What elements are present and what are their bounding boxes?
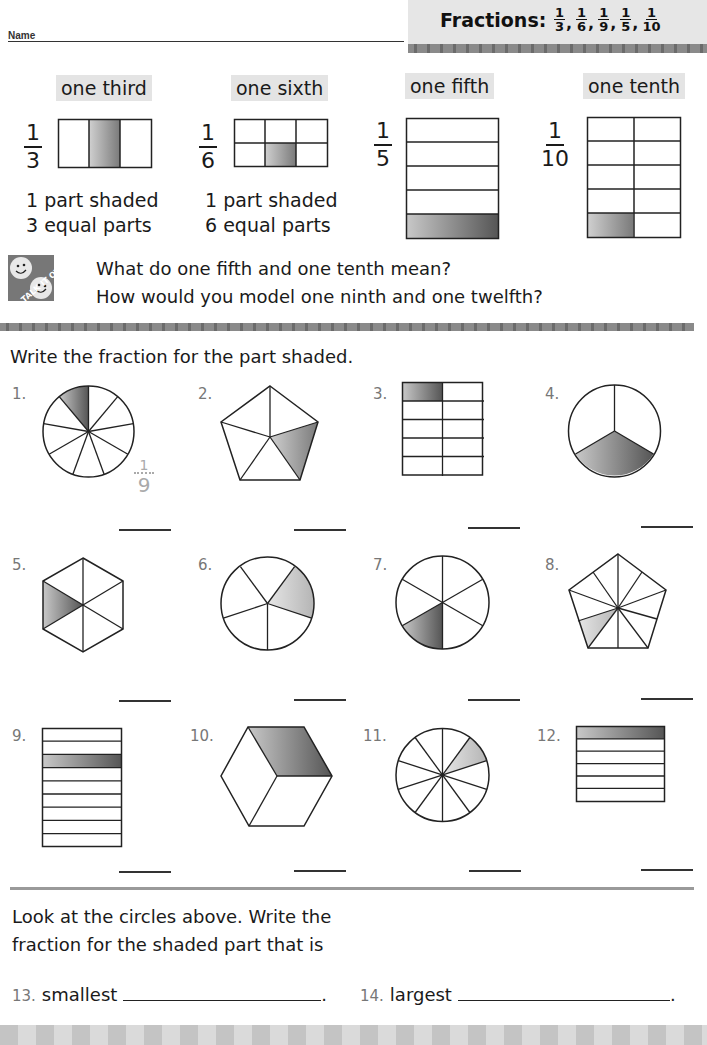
problem-number-8: 8. <box>545 556 559 574</box>
worksheet-title: Fractions: 13, 16, 19, 15, 110 <box>440 6 662 33</box>
problem-4-circle-thirds <box>568 382 662 478</box>
title-fraction-1-6: 16 <box>576 6 587 33</box>
title-fraction-1-9: 19 <box>598 6 609 33</box>
answer-field-12[interactable] <box>641 869 693 871</box>
problem-11-circle-tenths <box>396 726 490 824</box>
problem-number-11: 11. <box>363 727 387 745</box>
comparison-item-14: 14. largest . <box>360 984 676 1005</box>
label-one-third: one third <box>56 75 152 101</box>
title-fraction-1-10: 110 <box>642 6 660 33</box>
answer-field-7[interactable] <box>468 699 520 701</box>
problem-3-grid-tenths <box>402 382 484 476</box>
comparison-item-13: 13. smallest . <box>12 984 327 1005</box>
label-one-sixth: one sixth <box>231 75 328 101</box>
model-one-third <box>58 119 152 169</box>
answer-field-5[interactable] <box>119 700 171 702</box>
model-one-fifth <box>406 118 499 239</box>
title-prefix: Fractions: <box>440 9 546 31</box>
answer-field-6[interactable] <box>294 699 346 701</box>
answer-field-2[interactable] <box>294 529 346 531</box>
question-1: What do one fifth and one tenth mean? <box>96 255 543 283</box>
title-fraction-1-5: 15 <box>620 6 631 33</box>
problem-1-circle-ninths <box>42 385 136 479</box>
fraction-one-fifth: 15 <box>374 120 392 170</box>
fraction-one-tenth: 110 <box>541 120 569 170</box>
talk-it-over-questions: What do one fifth and one tenth mean? Ho… <box>96 255 543 311</box>
answer-field-3[interactable] <box>468 527 520 529</box>
exercise-instruction: Write the fraction for the part shaded. <box>10 346 353 367</box>
one-sixth-description: 1 part shaded6 equal parts <box>205 188 338 238</box>
problem-number-12: 12. <box>537 727 561 745</box>
answer-field-10[interactable] <box>294 870 346 872</box>
worksheet-title-box: Fractions: 13, 16, 19, 15, 110 <box>408 0 707 44</box>
decorative-band <box>408 44 707 53</box>
answer-field-4[interactable] <box>641 526 693 528</box>
problem-number-1: 1. <box>12 385 26 403</box>
example-answer-dotted-fraction: 1 9 <box>134 458 154 496</box>
name-input-line[interactable] <box>8 41 404 42</box>
footer-checker-band <box>0 1025 707 1045</box>
problem-7-circle-sixths <box>395 554 491 650</box>
problem-number-5: 5. <box>12 556 26 574</box>
question-2: How would you model one ninth and one tw… <box>96 283 543 311</box>
problem-number-9: 9. <box>12 727 26 745</box>
fraction-one-sixth: 16 <box>199 122 217 172</box>
problem-number-6: 6. <box>198 556 212 574</box>
problem-8-pentagon-tenths <box>568 553 668 649</box>
model-one-tenth <box>587 117 681 238</box>
talk-it-over-smiley-icon: TALK IT OVER <box>8 255 54 301</box>
model-one-sixth <box>234 119 328 168</box>
label-one-tenth: one tenth <box>583 73 685 99</box>
comparison-prompt: Look at the circles above. Write the fra… <box>12 903 331 959</box>
problem-5-hexagon-sixths <box>42 557 124 653</box>
problem-number-4: 4. <box>545 385 559 403</box>
answer-field-8[interactable] <box>641 698 693 700</box>
problem-10-cube-thirds <box>220 726 334 827</box>
section-divider-band <box>0 323 694 331</box>
one-third-description: 1 part shaded3 equal parts <box>26 188 159 238</box>
smallest-answer-field[interactable] <box>123 986 321 1001</box>
problem-number-7: 7. <box>373 556 387 574</box>
name-label: Name <box>8 30 35 41</box>
title-fraction-1-3: 13 <box>554 6 565 33</box>
label-one-fifth: one fifth <box>405 73 494 99</box>
problem-12-strips-sixths <box>576 726 665 802</box>
problem-number-3: 3. <box>373 385 387 403</box>
problem-2-pentagon-fifths <box>220 385 320 481</box>
answer-field-1[interactable] <box>119 529 171 531</box>
problem-number-2: 2. <box>198 385 212 403</box>
answer-field-9[interactable] <box>119 871 171 873</box>
answer-field-11[interactable] <box>469 870 521 872</box>
problem-6-circle-fifths <box>220 555 316 651</box>
section-divider <box>10 887 694 890</box>
problem-number-10: 10. <box>190 727 214 745</box>
largest-answer-field[interactable] <box>458 986 670 1001</box>
fraction-one-third: 13 <box>24 122 42 172</box>
problem-9-strips-ninths <box>42 728 122 847</box>
